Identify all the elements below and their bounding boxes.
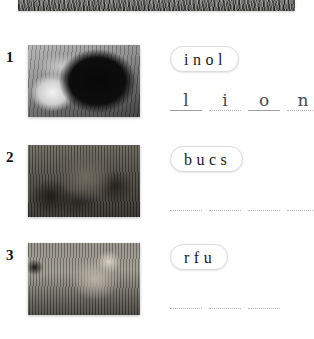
scrambled-word-chip-2[interactable]: bucs (170, 146, 243, 172)
lion-face-image (28, 45, 140, 117)
blank-rule (170, 210, 202, 211)
answer-blank[interactable]: l (170, 87, 202, 111)
answer-blanks-1: l i o n (170, 87, 314, 111)
blank-rule (170, 110, 202, 111)
answer-blank[interactable] (287, 187, 314, 211)
blank-rule (209, 308, 241, 309)
blank-rule (248, 210, 280, 211)
answer-blank[interactable] (248, 187, 280, 211)
exercise-number: 2 (6, 150, 14, 165)
scrambled-word-chip-1[interactable]: inol (170, 46, 239, 72)
answer-letter: o (248, 92, 280, 109)
blank-rule (209, 110, 241, 111)
exercise-image-3[interactable] (28, 243, 140, 315)
answer-blank[interactable]: i (209, 87, 241, 111)
answer-letter: l (170, 92, 202, 109)
answer-blank[interactable] (170, 187, 202, 211)
answer-letter: i (209, 92, 241, 109)
blank-rule (209, 210, 241, 211)
answer-blanks-2 (170, 187, 314, 211)
savanna-grass-image (18, 0, 295, 11)
answer-blank[interactable]: o (248, 87, 280, 111)
exercise-image-2[interactable] (28, 145, 140, 217)
blank-rule (248, 308, 280, 309)
answer-blank[interactable] (248, 285, 280, 309)
scrambled-word-chip-3[interactable]: rfu (170, 244, 228, 270)
lioness-with-cubs-image (28, 145, 140, 217)
answer-blank[interactable]: n (287, 87, 314, 111)
answer-blank[interactable] (209, 285, 241, 309)
blank-rule (248, 110, 280, 111)
blank-rule (287, 110, 314, 111)
blank-rule (170, 308, 202, 309)
answer-blank[interactable] (170, 285, 202, 309)
exercise-number: 3 (6, 248, 14, 263)
exercise-image-1[interactable] (28, 45, 140, 117)
answer-blank[interactable] (209, 187, 241, 211)
lioness-in-grass-image (28, 243, 140, 315)
answer-blanks-3 (170, 285, 280, 309)
blank-rule (287, 210, 314, 211)
exercise-number: 1 (6, 50, 14, 65)
banner-photo (18, 0, 295, 11)
answer-letter: n (287, 92, 314, 109)
